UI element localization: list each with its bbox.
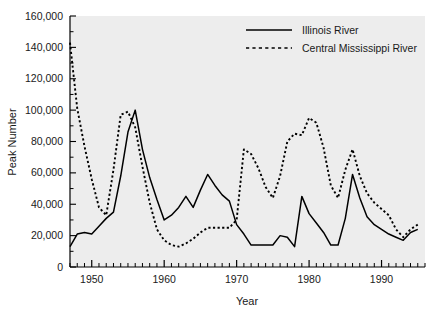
y-tick-label: 40,000 <box>31 198 63 210</box>
y-axis-tick-labels: 020,00040,00060,00080,000100,000120,0001… <box>25 10 63 273</box>
x-tick-label: 1970 <box>225 273 249 285</box>
x-tick-label: 1960 <box>153 273 177 285</box>
legend-label-illinois-river: Illinois River <box>302 24 359 36</box>
y-tick-label: 20,000 <box>31 229 63 241</box>
y-tick-label: 80,000 <box>31 135 63 147</box>
y-tick-label: 0 <box>57 261 63 273</box>
y-tick-label: 60,000 <box>31 166 63 178</box>
x-tick-label: 1980 <box>297 273 321 285</box>
y-axis-title: Peak Number <box>6 108 18 176</box>
y-tick-label: 140,000 <box>25 41 63 53</box>
x-tick-label: 1990 <box>370 273 394 285</box>
legend-label-central-mississippi-river: Central Mississippi River <box>302 42 417 54</box>
y-tick-label: 120,000 <box>25 72 63 84</box>
x-tick-label: 1950 <box>80 273 104 285</box>
peak-number-line-chart: 020,00040,00060,00080,000100,000120,0001… <box>0 0 441 313</box>
y-tick-label: 160,000 <box>25 10 63 22</box>
y-tick-label: 100,000 <box>25 104 63 116</box>
x-axis-title: Year <box>236 295 259 307</box>
chart-canvas: 020,00040,00060,00080,000100,000120,0001… <box>0 0 441 313</box>
